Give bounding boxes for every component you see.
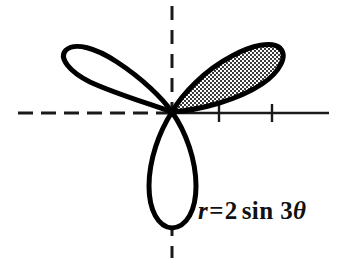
polar-rose-figure bbox=[0, 0, 349, 264]
